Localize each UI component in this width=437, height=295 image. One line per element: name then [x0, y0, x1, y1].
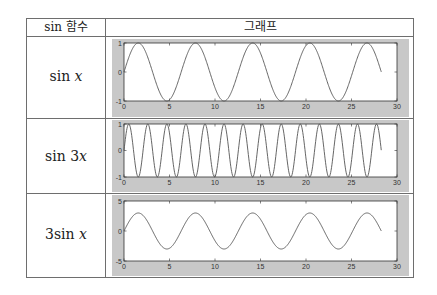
svg-text:5: 5 — [118, 198, 122, 205]
svg-text:30: 30 — [393, 263, 401, 270]
svg-text:5: 5 — [168, 179, 172, 186]
svg-text:0: 0 — [118, 147, 122, 154]
svg-text:15: 15 — [257, 103, 265, 110]
svg-text:1: 1 — [118, 121, 122, 128]
svg-text:25: 25 — [348, 103, 356, 110]
svg-text:5: 5 — [168, 103, 172, 110]
svg-text:20: 20 — [302, 179, 310, 186]
svg-text:25: 25 — [348, 179, 356, 186]
svg-text:5: 5 — [168, 263, 172, 270]
svg-text:-5: -5 — [116, 258, 122, 265]
svg-text:15: 15 — [257, 263, 265, 270]
row-label-sin-x: sin x — [27, 68, 105, 84]
row-divider — [27, 36, 413, 37]
svg-text:-1: -1 — [116, 98, 122, 105]
svg-text:20: 20 — [302, 263, 310, 270]
svg-text:10: 10 — [211, 103, 219, 110]
svg-text:10: 10 — [211, 179, 219, 186]
svg-text:25: 25 — [348, 263, 356, 270]
column-divider — [105, 19, 106, 277]
sin-function-table: sin 함수 그래프 sin x sin 3x 3sin x 051015202… — [26, 18, 414, 278]
svg-text:30: 30 — [393, 103, 401, 110]
svg-text:-1: -1 — [116, 174, 122, 181]
row-label-3sin-x: 3sin x — [27, 226, 105, 242]
plot-sin-x: 051015202530-101 — [112, 39, 409, 117]
svg-text:20: 20 — [302, 103, 310, 110]
svg-text:30: 30 — [393, 179, 401, 186]
row-label-sin-3x: sin 3x — [27, 148, 105, 164]
svg-text:0: 0 — [118, 69, 122, 76]
svg-text:0: 0 — [122, 103, 126, 110]
header-graph: 그래프 — [106, 19, 414, 36]
svg-text:0: 0 — [118, 228, 122, 235]
row-divider — [27, 118, 413, 119]
plot-3sin-x: 051015202530-505 — [112, 195, 409, 276]
svg-text:15: 15 — [257, 179, 265, 186]
svg-text:0: 0 — [122, 263, 126, 270]
row-divider — [27, 193, 413, 194]
svg-text:0: 0 — [122, 179, 126, 186]
svg-text:10: 10 — [211, 263, 219, 270]
header-function: sin 함수 — [27, 19, 105, 36]
plot-sin-3x: 051015202530-101 — [112, 120, 409, 192]
svg-text:1: 1 — [118, 40, 122, 47]
